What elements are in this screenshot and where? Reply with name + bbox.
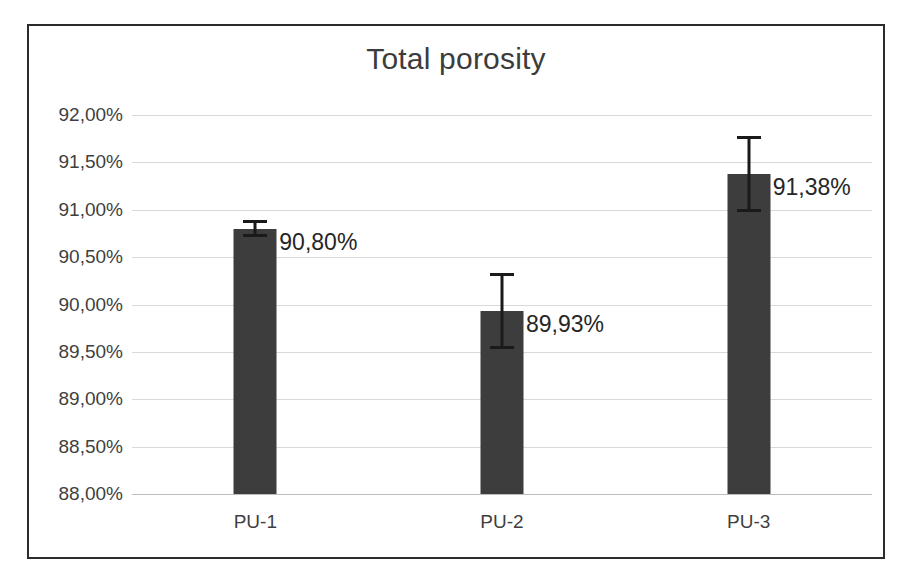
bar-value-label: 89,93% xyxy=(526,311,604,338)
gridline xyxy=(132,494,872,495)
bar-group: 89,93%PU-2 xyxy=(379,115,626,494)
y-axis-tick-label: 91,00% xyxy=(59,199,123,221)
x-axis-tick-label: PU-1 xyxy=(234,511,277,533)
y-axis-tick-label: 88,50% xyxy=(59,436,123,458)
y-axis-tick-label: 89,00% xyxy=(59,388,123,410)
error-bar-cap-top xyxy=(243,220,267,223)
error-bar-cap-top xyxy=(737,136,761,139)
y-axis-tick-label: 90,50% xyxy=(59,246,123,268)
chart-frame: Total porosity 92,00%91,50%91,00%90,50%9… xyxy=(27,24,885,559)
x-axis-tick-label: PU-3 xyxy=(727,511,770,533)
bar-value-label: 90,80% xyxy=(279,228,357,255)
bar[interactable] xyxy=(234,229,277,494)
bar[interactable] xyxy=(727,174,770,494)
error-bar xyxy=(490,273,514,349)
chart-title: Total porosity xyxy=(29,42,883,76)
error-bar-cap-bottom xyxy=(737,209,761,212)
x-axis-tick-label: PU-2 xyxy=(480,511,523,533)
bar-group: 90,80%PU-1 xyxy=(132,115,379,494)
error-bar-stem xyxy=(747,136,750,212)
y-axis-tick-label: 91,50% xyxy=(59,151,123,173)
error-bar xyxy=(243,220,267,237)
error-bar-stem xyxy=(500,273,503,349)
error-bar-cap-bottom xyxy=(243,234,267,237)
bar-group: 91,38%PU-3 xyxy=(625,115,872,494)
error-bar xyxy=(737,136,761,212)
plot-area: 92,00%91,50%91,00%90,50%90,00%89,50%89,0… xyxy=(132,115,872,494)
y-axis-tick-label: 88,00% xyxy=(59,483,123,505)
y-axis-tick-label: 89,50% xyxy=(59,341,123,363)
bar-value-label: 91,38% xyxy=(773,173,851,200)
y-axis-tick-label: 92,00% xyxy=(59,104,123,126)
y-axis-tick-label: 90,00% xyxy=(59,294,123,316)
error-bar-cap-top xyxy=(490,273,514,276)
error-bar-cap-bottom xyxy=(490,346,514,349)
